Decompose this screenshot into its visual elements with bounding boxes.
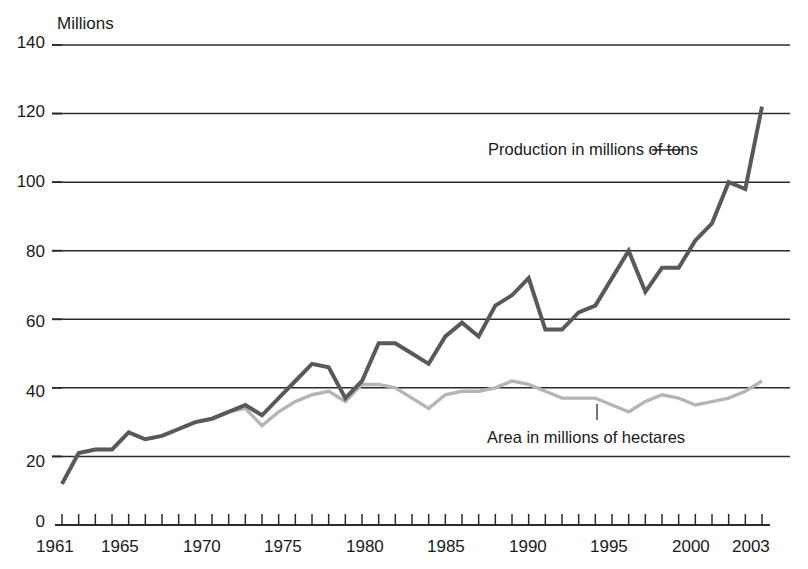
gridlines <box>52 45 790 456</box>
plot-svg <box>0 0 808 569</box>
chart-container: Millions 140 120 100 80 60 40 20 0 1961 … <box>0 0 808 569</box>
series-line-production <box>62 107 762 484</box>
x-axis <box>52 45 770 525</box>
series-lines <box>62 107 762 484</box>
